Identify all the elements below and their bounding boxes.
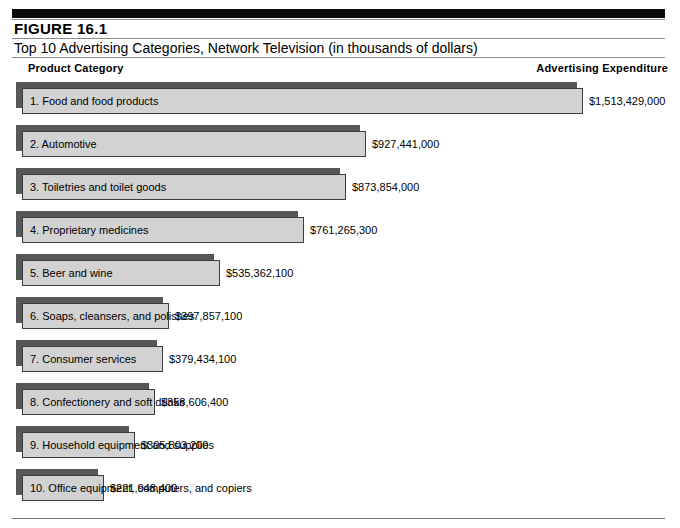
bar-row: 5. Beer and wine$535,362,100 — [0, 250, 680, 293]
bar-row: 7. Consumer services$379,434,100 — [0, 336, 680, 379]
bar-row: 1. Food and food products$1,513,429,000 — [0, 78, 680, 121]
bar-row: 9. Household equipment and supplies$305,… — [0, 422, 680, 465]
bar-chart: 1. Food and food products$1,513,429,0002… — [0, 78, 680, 514]
bar-value-label: $1,513,429,000 — [589, 88, 665, 114]
bar-category-label: 5. Beer and wine — [30, 260, 113, 286]
top-black-rule — [12, 9, 665, 18]
bar-category-label: 6. Soaps, cleansers, and polishes — [30, 303, 195, 329]
bottom-rule — [12, 518, 665, 519]
bar-row: 10. Office equipment, computers, and cop… — [0, 465, 680, 508]
figure-16-1: FIGURE 16.1 Top 10 Advertising Categorie… — [0, 0, 680, 528]
bar-category-label: 2. Automotive — [30, 131, 97, 157]
bar-value-label: $358,606,400 — [161, 389, 228, 415]
divider-below-title — [12, 57, 665, 58]
column-header-product-category: Product Category — [28, 61, 124, 75]
bar-value-label: $927,441,000 — [372, 131, 439, 157]
bar-row: 6. Soaps, cleansers, and polishes$397,85… — [0, 293, 680, 336]
bar-row: 3. Toiletries and toilet goods$873,854,0… — [0, 164, 680, 207]
bar-category-label: 1. Food and food products — [30, 88, 158, 114]
bar-value-label: $535,362,100 — [226, 260, 293, 286]
figure-number: FIGURE 16.1 — [14, 20, 107, 38]
figure-title: Top 10 Advertising Categories, Network T… — [14, 40, 478, 57]
bar-category-label: 4. Proprietary medicines — [30, 217, 149, 243]
column-header-advertising-expenditure: Advertising Expenditure — [536, 61, 668, 75]
divider-below-figure-number — [12, 38, 665, 39]
bar-value-label: $379,434,100 — [169, 346, 236, 372]
bar-value-label: $873,854,000 — [352, 174, 419, 200]
divider-below-black-rule — [12, 19, 665, 20]
bar-value-label: $305,803,200 — [141, 432, 208, 458]
bar-row: 4. Proprietary medicines$761,265,300 — [0, 207, 680, 250]
bar-category-label: 3. Toiletries and toilet goods — [30, 174, 166, 200]
bar-value-label: $397,857,100 — [175, 303, 242, 329]
bar-row: 2. Automotive$927,441,000 — [0, 121, 680, 164]
bar-value-label: $761,265,300 — [310, 217, 377, 243]
bar-category-label: 7. Consumer services — [30, 346, 136, 372]
bar-row: 8. Confectionery and soft drinks$358,606… — [0, 379, 680, 422]
bar-value-label: $221,948,400 — [110, 475, 177, 501]
